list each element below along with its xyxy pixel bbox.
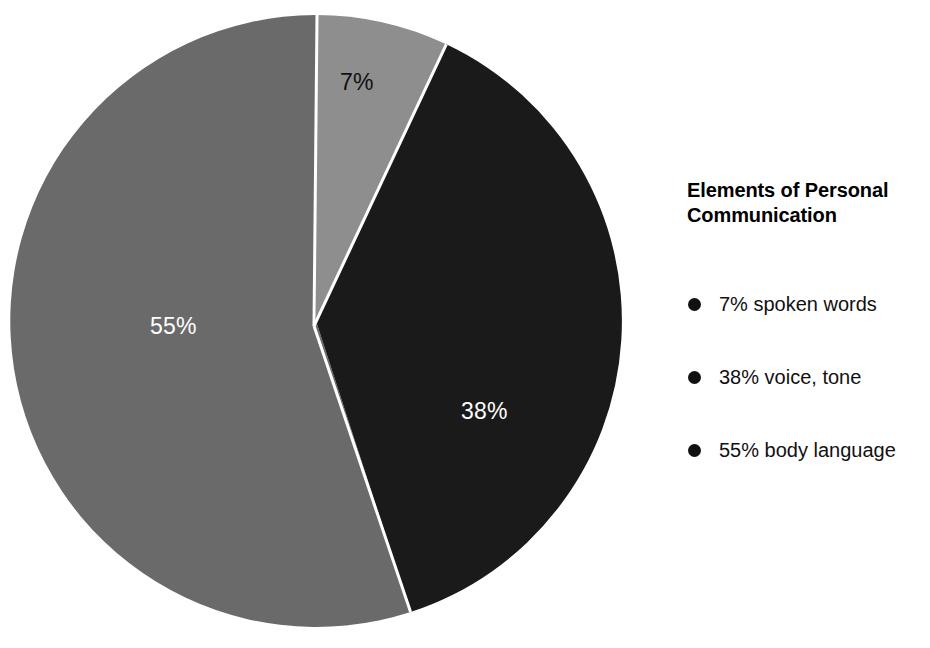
legend-item-label: 7% spoken words <box>719 292 922 316</box>
pie-chart-page: 7% 38% 55% Elements of Personal Communic… <box>0 0 930 648</box>
pie-chart-svg <box>0 0 640 648</box>
legend-item-voice-tone[interactable]: 38% voice, tone <box>687 365 922 438</box>
pie-label-body-language: 55% <box>150 313 197 340</box>
legend-item-label: 55% body language <box>719 438 922 462</box>
bullet-dot-icon <box>688 444 701 457</box>
legend-item-spoken-words[interactable]: 7% spoken words <box>687 292 922 365</box>
legend-item-body-language[interactable]: 55% body language <box>687 438 922 511</box>
pie-chart: 7% 38% 55% <box>0 0 640 648</box>
pie-label-spoken-words: 7% <box>340 69 374 96</box>
chart-legend: Elements of Personal Communication 7% sp… <box>687 178 922 228</box>
legend-item-list: 7% spoken words 38% voice, tone 55% body… <box>687 292 922 511</box>
legend-item-label: 38% voice, tone <box>719 365 922 389</box>
bullet-dot-icon <box>688 298 701 311</box>
legend-title: Elements of Personal Communication <box>687 178 922 228</box>
pie-label-voice-tone: 38% <box>461 398 508 425</box>
bullet-dot-icon <box>688 371 701 384</box>
